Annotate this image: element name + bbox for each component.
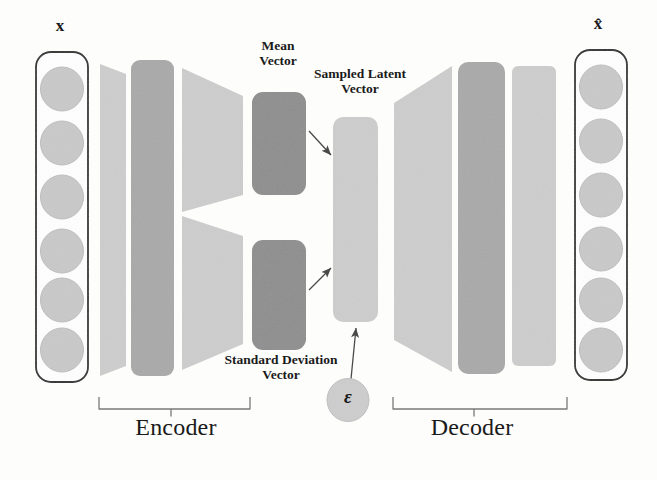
- standard-deviation-vector-label: Standard Deviation Vector: [195, 352, 367, 382]
- input-vector-group: [36, 52, 88, 382]
- output-vector-label: x̂: [572, 14, 624, 33]
- encoder-trapezoid-1: [100, 64, 126, 376]
- output-node: [580, 328, 623, 372]
- input-node: [41, 278, 84, 322]
- output-node: [580, 278, 623, 322]
- input-node: [41, 229, 84, 273]
- encoder-trapezoid-2-upper: [182, 68, 243, 212]
- epsilon-label: ε: [328, 386, 368, 407]
- output-vector-group: [575, 50, 627, 380]
- encoder-label: Encoder: [108, 414, 244, 441]
- mean-vector-rect: [252, 92, 306, 195]
- arrow-mean-to-latent: [309, 131, 331, 155]
- encoder-hidden-rect: [131, 60, 174, 376]
- decoder-output-rect: [512, 66, 556, 366]
- input-node: [41, 175, 84, 219]
- input-node: [41, 67, 84, 111]
- encoder-layers-group: [100, 60, 243, 376]
- arrow-stddev-to-latent: [309, 268, 331, 290]
- output-node: [580, 227, 623, 271]
- output-node: [580, 173, 623, 217]
- input-vector-label: x: [34, 16, 86, 35]
- decoder-label: Decoder: [404, 414, 540, 441]
- decoder-hidden-rect: [458, 62, 505, 374]
- encoder-trapezoid-2-lower: [182, 216, 243, 370]
- input-node: [41, 328, 84, 372]
- sampled-latent-vector-rect: [333, 117, 378, 322]
- latent-group: [333, 117, 378, 322]
- output-node: [580, 119, 623, 163]
- stddev-vector-rect: [252, 240, 306, 350]
- input-node: [41, 121, 84, 165]
- distribution-params-group: [252, 92, 306, 350]
- vae-architecture-diagram: x x̂ Mean Vector Sampled Latent Vector S…: [0, 0, 657, 480]
- decoder-layers-group: [394, 62, 556, 374]
- output-node: [580, 65, 623, 109]
- mean-vector-label: Mean Vector: [230, 38, 326, 68]
- sampled-latent-vector-label: Sampled Latent Vector: [302, 66, 418, 96]
- decoder-trapezoid: [394, 66, 452, 372]
